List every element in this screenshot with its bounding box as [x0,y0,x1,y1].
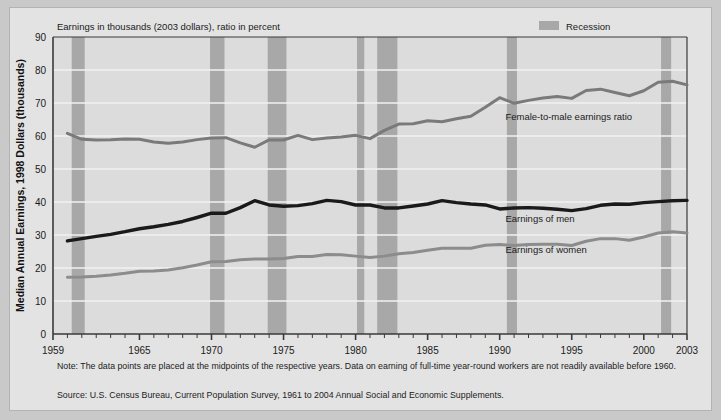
x-tick-label: 1990 [489,345,512,356]
y-tick-label: 0 [40,329,46,340]
x-tick-label: 1965 [128,345,151,356]
y-tick-label: 40 [35,197,47,208]
y-tick-label: 60 [35,131,47,142]
series-label-men: Earnings of men [505,213,574,224]
chart-figure: 0102030405060708090195919651970197519801… [9,7,712,411]
y-axis-title: Median Annual Earnings, 1998 Dollars (th… [14,59,26,312]
recession-band [377,37,397,334]
x-tick-label: 1959 [42,345,65,356]
x-tick-label: 1985 [417,345,440,356]
x-tick-label: 1970 [200,345,223,356]
x-tick-label: 1995 [561,345,584,356]
legend-recession-label: Recession [566,21,610,32]
recession-band [72,37,85,334]
series-label-ratio: Female-to-male earnings ratio [505,111,632,122]
y-tick-label: 90 [35,32,47,43]
legend-recession-swatch [539,21,559,30]
y-tick-label: 80 [35,65,47,76]
recession-band [507,37,517,334]
x-tick-label: 2000 [633,345,656,356]
chart-title: Earnings in thousands (2003 dollars), ra… [57,21,280,32]
y-tick-label: 10 [35,296,47,307]
y-tick-label: 50 [35,164,47,175]
plot-area [53,37,687,334]
recession-band [268,37,287,334]
x-tick-label: 2003 [676,345,699,356]
x-tick-label: 1975 [272,345,295,356]
y-tick-label: 30 [35,230,47,241]
y-tick-label: 70 [35,98,47,109]
series-label-women: Earnings of women [505,244,586,255]
recession-band [210,37,224,334]
recession-band [357,37,364,334]
chart-source: Source: U.S. Census Bureau, Current Popu… [57,389,677,402]
x-tick-label: 1980 [344,345,367,356]
chart-canvas: 0102030405060708090195919651970197519801… [10,8,713,412]
y-tick-label: 20 [35,263,47,274]
chart-note: Note: The data points are placed at the … [57,360,677,373]
